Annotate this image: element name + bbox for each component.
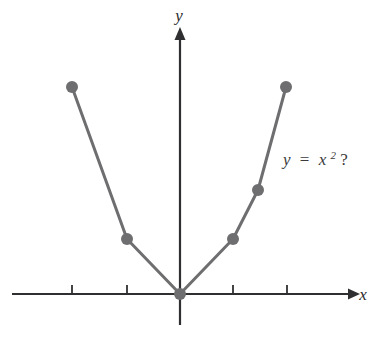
figure-background [0, 0, 386, 341]
curve-label-question: ? [340, 150, 348, 169]
y-axis-label: y [173, 6, 183, 25]
data-point-marker [66, 81, 78, 93]
data-point-marker [174, 288, 186, 300]
data-point-marker [280, 81, 292, 93]
curve-label-y: y [281, 150, 291, 169]
curve-label-x: x [318, 150, 327, 169]
data-point-marker [252, 184, 264, 196]
graph-figure: x y y = x 2 ? [0, 0, 386, 341]
curve-label-exponent: 2 [330, 149, 336, 161]
data-point-marker [227, 233, 239, 245]
data-point-marker [121, 233, 133, 245]
x-axis-label: x [358, 285, 367, 304]
curve-label-equals: = [300, 150, 310, 169]
